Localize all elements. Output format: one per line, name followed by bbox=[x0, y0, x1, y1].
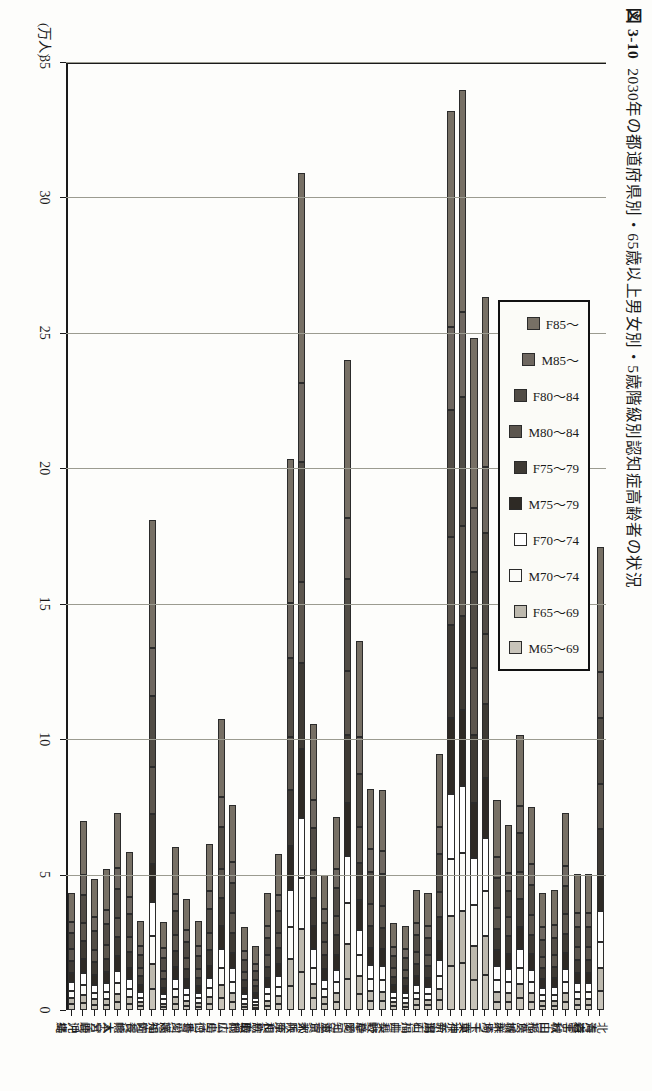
bar-segment bbox=[551, 890, 558, 925]
legend-item: F85～ bbox=[527, 314, 579, 333]
bar-row bbox=[482, 62, 489, 1010]
category-tick bbox=[220, 1010, 221, 1016]
bar-segment bbox=[218, 998, 225, 1010]
bar-segment bbox=[470, 905, 477, 945]
bar-segment bbox=[482, 467, 489, 533]
bar-segment bbox=[298, 818, 305, 878]
bar-segment bbox=[172, 967, 179, 979]
bar-row bbox=[390, 62, 397, 1010]
bar-segment bbox=[252, 971, 259, 980]
bar-segment bbox=[562, 866, 569, 886]
bar-segment bbox=[126, 989, 133, 997]
bar-segment bbox=[80, 985, 87, 995]
bar-row bbox=[195, 62, 202, 1010]
category-tick bbox=[186, 1010, 187, 1016]
axis-tick-label: 20 bbox=[36, 461, 52, 475]
category-tick bbox=[128, 1010, 129, 1016]
bar-segment bbox=[333, 982, 340, 993]
bar-segment bbox=[160, 958, 167, 971]
bar-segment bbox=[367, 979, 374, 991]
bar-row bbox=[413, 62, 420, 1010]
bar-segment bbox=[91, 993, 98, 1000]
bar-segment bbox=[528, 885, 535, 915]
bar-segment bbox=[68, 982, 75, 990]
bar-segment bbox=[597, 968, 604, 990]
axis-tickmark bbox=[60, 197, 66, 198]
bar-segment bbox=[103, 959, 110, 973]
bar-segment bbox=[574, 874, 581, 912]
bar-segment bbox=[367, 849, 374, 872]
category-tick bbox=[484, 1010, 485, 1016]
bar-segment bbox=[298, 383, 305, 463]
bar-segment bbox=[482, 838, 489, 891]
bar-segment bbox=[493, 800, 500, 857]
bar-segment bbox=[562, 982, 569, 993]
bar-segment bbox=[390, 947, 397, 956]
bar-segment bbox=[91, 975, 98, 985]
bar-segment bbox=[114, 1002, 121, 1010]
figure-3-10: 図 3-102030年の都道府県別・65歳以上男女別・5歳階級別認知症高齢者の状… bbox=[0, 0, 652, 1091]
bar-segment bbox=[344, 360, 351, 518]
bar-segment bbox=[252, 946, 259, 964]
bar-segment bbox=[574, 992, 581, 999]
bar-segment bbox=[390, 977, 397, 985]
bar-segment bbox=[91, 917, 98, 931]
bar-segment bbox=[103, 983, 110, 992]
bar-segment bbox=[206, 966, 213, 978]
bar-segment bbox=[424, 938, 431, 955]
bar-segment bbox=[218, 968, 225, 984]
bar-segment bbox=[275, 911, 282, 933]
bar-segment bbox=[287, 459, 294, 603]
bar-segment bbox=[218, 797, 225, 827]
bar-segment bbox=[195, 986, 202, 993]
bar-segment bbox=[126, 914, 133, 937]
bar-segment bbox=[390, 1006, 397, 1010]
bar-segment bbox=[218, 827, 225, 869]
bar-segment bbox=[459, 90, 466, 312]
bar-segment bbox=[275, 948, 282, 964]
bar-segment bbox=[424, 978, 431, 987]
bar-segment bbox=[436, 854, 443, 891]
bar-segment bbox=[344, 518, 351, 579]
bar-segment bbox=[482, 936, 489, 975]
category-tick bbox=[415, 1010, 416, 1016]
bar-segment bbox=[172, 911, 179, 935]
category-tick bbox=[312, 1010, 313, 1016]
gridline bbox=[66, 875, 606, 876]
bar-segment bbox=[505, 993, 512, 1002]
bar-segment bbox=[218, 869, 225, 897]
bar-segment bbox=[344, 579, 351, 672]
bar-segment bbox=[597, 718, 604, 785]
bar-segment bbox=[264, 967, 271, 978]
bar-segment bbox=[436, 1000, 443, 1010]
bar-row bbox=[356, 62, 363, 1010]
category-tick bbox=[140, 1010, 141, 1016]
category-tick bbox=[301, 1010, 302, 1016]
category-tick bbox=[94, 1010, 95, 1016]
bar-segment bbox=[80, 973, 87, 985]
bar-segment bbox=[149, 864, 156, 903]
bar-segment bbox=[298, 929, 305, 972]
bar-segment bbox=[413, 923, 420, 935]
bar-segment bbox=[505, 917, 512, 935]
bar-segment bbox=[287, 603, 294, 657]
category-tick bbox=[461, 1010, 462, 1016]
bar-segment bbox=[585, 1005, 592, 1010]
category-tick bbox=[404, 1010, 405, 1016]
bar-segment bbox=[482, 297, 489, 467]
bar-segment bbox=[149, 814, 156, 863]
bar-segment bbox=[562, 993, 569, 1002]
bar-segment bbox=[91, 985, 98, 993]
bar-segment bbox=[287, 890, 294, 928]
bar-segment bbox=[229, 862, 236, 883]
axis-tick-label: 15 bbox=[36, 597, 52, 611]
bar-segment bbox=[539, 988, 546, 995]
bar-segment bbox=[516, 806, 523, 833]
bar-segment bbox=[413, 935, 420, 952]
category-tick bbox=[232, 1010, 233, 1016]
bar-segment bbox=[597, 784, 604, 829]
category-tick bbox=[496, 1010, 497, 1016]
bar-segment bbox=[597, 991, 604, 1011]
category-tick bbox=[599, 1010, 600, 1016]
bar-segment bbox=[298, 878, 305, 929]
